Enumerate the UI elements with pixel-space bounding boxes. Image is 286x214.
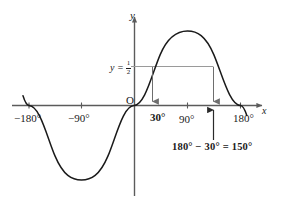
y-value-lhs: y = [110, 63, 124, 73]
x-tick-label-neg-90: −90° [68, 113, 90, 124]
x-tick-label-neg-180: −180° [14, 113, 41, 124]
origin-label: O [126, 95, 134, 106]
fraction-numerator: 1 [126, 60, 132, 67]
x-tick-label-30: 30° [150, 112, 165, 123]
x-axis-label: x [262, 106, 266, 116]
x-tick-label-90: 90° [179, 114, 194, 125]
fraction-denominator: 2 [126, 69, 132, 76]
figure-canvas: y x O −180° −90° 30° 90° 180° y = 1 2 18… [0, 0, 286, 214]
one-half-fraction: 1 2 [126, 60, 132, 76]
sine-curve-head [23, 96, 29, 106]
equation-annotation: 180° − 30° = 150° [172, 142, 252, 153]
x-tick-label-180: 180° [233, 113, 254, 124]
y-axis-label: y [130, 10, 135, 21]
y-value-label: y = 1 2 [110, 60, 131, 76]
sine-curve-diagram [0, 0, 286, 214]
